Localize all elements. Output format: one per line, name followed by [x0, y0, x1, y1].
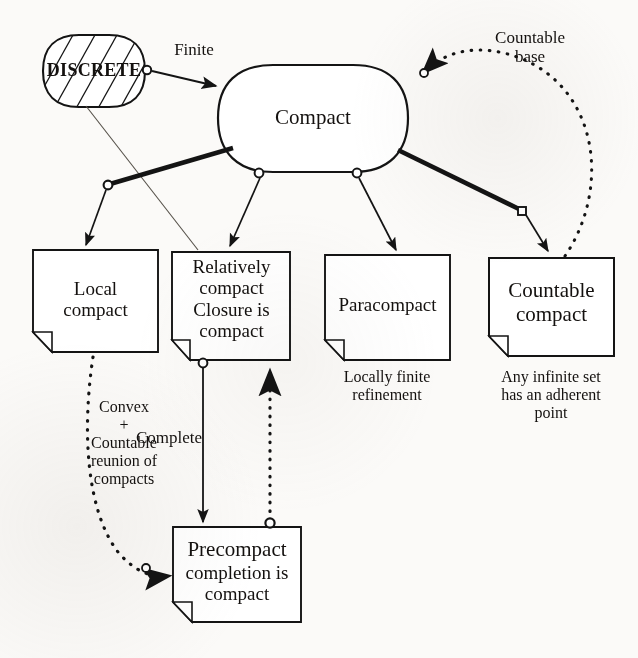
paracompact-caption-line2: refinement	[322, 386, 452, 404]
node-countable-compact-label-line2: compact	[489, 303, 614, 327]
countable-compact-caption-line1: Any infinite set	[483, 368, 619, 386]
countable-compact-caption-line3: point	[483, 404, 619, 422]
edge-compact-to-relatively-compact	[230, 169, 263, 246]
edge-discrete-to-relatively-compact	[86, 106, 198, 250]
node-compact-label: Compact	[218, 106, 408, 130]
edge-label-convex-line1: Convex	[72, 398, 176, 416]
node-discrete-label: DISCRETE	[43, 60, 145, 80]
edge-countable-compact-to-compact	[420, 50, 592, 256]
node-local-compact-label-line2: compact	[33, 299, 158, 320]
node-precompact-label-line2: completion is	[173, 562, 301, 583]
node-relatively-compact-label-line4: compact	[169, 320, 294, 341]
diagram-canvas: DISCRETE Compact Local compact Relativel…	[0, 0, 638, 658]
node-relatively-compact-label-line3: Closure is	[169, 299, 294, 320]
edge-discrete-to-compact	[143, 66, 216, 86]
countable-compact-caption-line2: has an adherent	[483, 386, 619, 404]
paracompact-caption-line1: Locally finite	[322, 368, 452, 386]
node-precompact-label-line1: Precompact	[173, 538, 301, 562]
edge-label-convex-line3: Countable	[72, 434, 176, 452]
diagram-vector-layer	[0, 0, 638, 658]
edge-label-convex-line5: compacts	[72, 470, 176, 488]
edge-label-convex-line4: reunion of	[72, 452, 176, 470]
node-precompact-label-line3: compact	[173, 583, 301, 604]
node-local-compact-label-line1: Local	[33, 278, 158, 299]
edge-label-countable-base-line2: base	[466, 47, 594, 66]
node-countable-compact-label-line1: Countable	[489, 279, 614, 303]
edge-label-convex-line2: +	[72, 416, 176, 434]
edge-precompact-to-relatively-compact	[265, 372, 274, 528]
edge-label-countable-base-line1: Countable	[466, 28, 594, 47]
edge-compact-to-local-compact	[86, 148, 233, 245]
edge-label-finite: Finite	[156, 40, 232, 59]
node-relatively-compact-label-line1: Relatively	[169, 256, 294, 277]
edge-compact-to-paracompact	[353, 169, 396, 250]
edge-compact-to-countable-compact	[398, 150, 548, 251]
node-paracompact-label-line1: Paracompact	[325, 294, 450, 315]
node-relatively-compact-label-line2: compact	[169, 277, 294, 298]
